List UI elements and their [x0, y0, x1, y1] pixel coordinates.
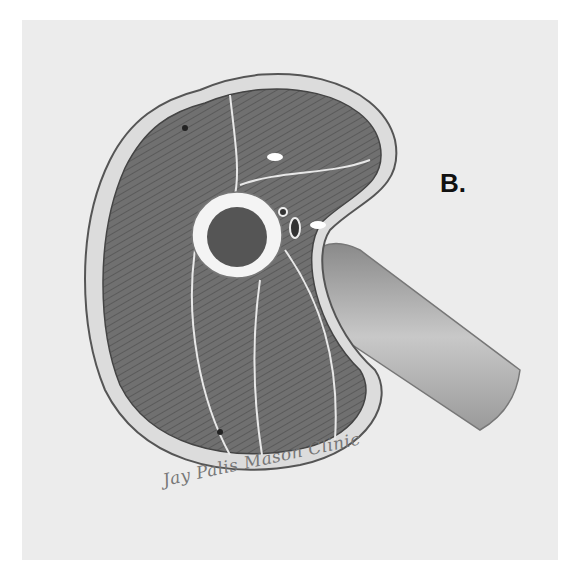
thigh-cross-section-illustration	[0, 0, 580, 585]
panel-label: B.	[440, 168, 466, 199]
marrow	[207, 207, 267, 267]
